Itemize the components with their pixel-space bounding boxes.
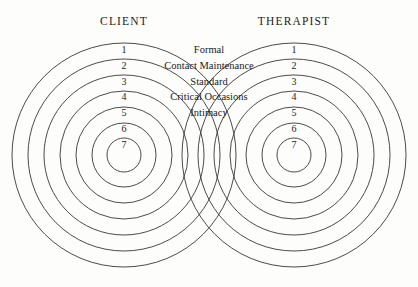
- diagram-canvas: CLIENT THERAPIST 1234567 1234567 FormalC…: [0, 0, 418, 287]
- center-label-5: Intimacy: [129, 105, 289, 121]
- therapist-ring-number-6: 6: [277, 121, 311, 137]
- center-label-2: Contact Maintenance: [129, 58, 289, 74]
- therapist-heading: THERAPIST: [170, 15, 418, 27]
- therapist-ring-number-7: 7: [277, 137, 311, 153]
- center-label-1: Formal: [129, 42, 289, 58]
- client-ring-number-7: 7: [107, 137, 141, 153]
- client-ring-number-6: 6: [107, 121, 141, 137]
- intimacy-level-labels: FormalContact MaintenanceStandardCritica…: [129, 42, 289, 121]
- center-label-4: Critical Occasions: [129, 89, 289, 105]
- center-label-3: Standard: [129, 74, 289, 90]
